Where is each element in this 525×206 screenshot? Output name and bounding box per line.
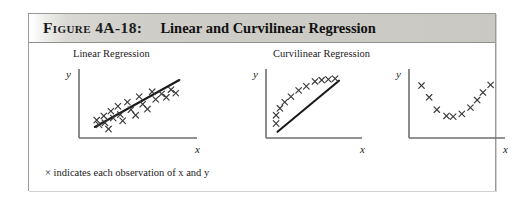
curvilinear-line-points bbox=[273, 76, 338, 126]
plot-title-curvilinear: Curvilinear Regression bbox=[273, 48, 370, 59]
data-point-marker bbox=[468, 105, 474, 111]
linear-x-axis-label: x bbox=[194, 143, 200, 155]
data-point-marker bbox=[282, 99, 288, 105]
data-point-marker bbox=[434, 107, 440, 113]
scatter-plot-linear: yx bbox=[57, 63, 207, 158]
data-point-marker bbox=[125, 99, 131, 105]
curvilinear-line-x-axis-label: x bbox=[359, 143, 365, 155]
data-point-marker bbox=[136, 94, 142, 100]
plot-title-linear: Linear Regression bbox=[73, 48, 150, 59]
data-point-marker bbox=[108, 108, 114, 114]
scatter-plot-curvilinear-line: yx bbox=[244, 63, 372, 158]
data-point-marker bbox=[319, 77, 325, 83]
scatter-plot-curvilinear-u: yx bbox=[387, 63, 515, 158]
figure-label-text: Figure bbox=[43, 19, 91, 36]
figure-caption: × indicates each observation of x and y bbox=[45, 167, 209, 178]
data-point-marker bbox=[419, 83, 425, 89]
linear-y-axis-label: y bbox=[65, 68, 71, 80]
figure-body: Linear Regression Curvilinear Regression… bbox=[29, 43, 495, 191]
curvilinear-u-y-axis-label: y bbox=[395, 68, 401, 80]
data-point-marker bbox=[149, 89, 155, 95]
curvilinear-u-points bbox=[419, 82, 494, 119]
data-point-marker bbox=[312, 79, 318, 85]
data-point-marker bbox=[153, 97, 159, 103]
data-point-marker bbox=[332, 76, 338, 82]
data-point-marker bbox=[459, 111, 465, 117]
data-point-marker bbox=[106, 126, 112, 132]
figure-box: Figure 4A-18: Linear and Curvilinear Reg… bbox=[28, 13, 496, 191]
data-point-marker bbox=[326, 77, 332, 83]
figure-title: Linear and Curvilinear Regression bbox=[160, 20, 376, 37]
data-point-marker bbox=[164, 94, 170, 100]
data-point-marker bbox=[101, 113, 107, 119]
data-point-marker bbox=[273, 112, 279, 118]
data-point-marker bbox=[288, 94, 294, 100]
data-point-marker bbox=[273, 121, 279, 127]
data-point-marker bbox=[296, 88, 302, 94]
data-point-marker bbox=[444, 113, 450, 119]
data-point-marker bbox=[304, 83, 310, 89]
data-point-marker bbox=[115, 103, 121, 109]
figure-label: Figure 4A-18: bbox=[43, 19, 142, 37]
data-point-marker bbox=[120, 118, 126, 124]
data-point-marker bbox=[277, 106, 283, 112]
data-point-marker bbox=[488, 82, 494, 88]
data-point-marker bbox=[159, 91, 165, 97]
data-point-marker bbox=[450, 114, 456, 120]
data-point-marker bbox=[474, 97, 480, 103]
curvilinear-line-y-axis-label: y bbox=[252, 68, 258, 80]
figure-header: Figure 4A-18: Linear and Curvilinear Reg… bbox=[29, 14, 495, 43]
data-point-marker bbox=[426, 94, 432, 100]
curvilinear-u-x-axis-label: x bbox=[502, 143, 508, 155]
data-point-marker bbox=[173, 90, 179, 96]
linear-points bbox=[94, 87, 179, 132]
data-point-marker bbox=[480, 90, 486, 96]
data-point-marker bbox=[145, 106, 151, 112]
data-point-marker bbox=[133, 112, 139, 118]
figure-number: 4A-18: bbox=[95, 19, 142, 36]
data-point-marker bbox=[168, 87, 174, 93]
